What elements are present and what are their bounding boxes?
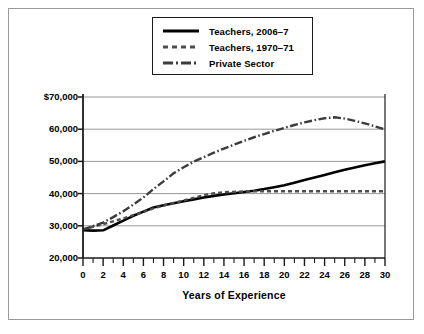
legend-label-teachers-1970-71: Teachers, 1970–71 — [209, 42, 294, 53]
y-axis-tick-label: 60,000 — [21, 123, 78, 134]
chart-figure: $70,00060,00050,00040,00030,00020,000 02… — [0, 0, 424, 334]
y-axis-tick-label: $70,000 — [21, 91, 78, 102]
legend-label-private-sector: Private Sector — [209, 58, 274, 69]
gridlines — [83, 97, 385, 226]
chart-legend: Teachers, 2006–7 Teachers, 1970–71 Priva… — [152, 17, 313, 75]
legend-item-teachers-2006-7: Teachers, 2006–7 — [153, 23, 312, 39]
y-axis-tick-label: 40,000 — [21, 188, 78, 199]
data-series-group — [83, 117, 385, 230]
legend-swatch-dash-dot — [162, 57, 200, 69]
legend-swatch-dashed — [162, 41, 200, 53]
x-axis-title: Years of Experience — [83, 289, 385, 301]
y-axis-tick-label: 20,000 — [21, 252, 78, 263]
legend-item-private-sector: Private Sector — [153, 55, 312, 71]
legend-swatch-solid — [162, 25, 200, 37]
y-axis-tick-label: 50,000 — [21, 155, 78, 166]
legend-item-teachers-1970-71: Teachers, 1970–71 — [153, 39, 312, 55]
legend-label-teachers-2006-7: Teachers, 2006–7 — [209, 26, 289, 37]
x-axis-tick-label: 30 — [373, 269, 397, 280]
y-axis-tick-label: 30,000 — [21, 220, 78, 231]
